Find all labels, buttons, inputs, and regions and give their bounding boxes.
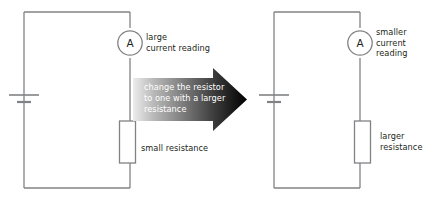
- right-resistor-box: [355, 121, 371, 163]
- transition-arrow-label: change the resistor to one with a larger…: [144, 82, 225, 116]
- left-circuit-group: A: [9, 12, 142, 188]
- right-ammeter-label: smaller current reading: [376, 27, 407, 59]
- right-ammeter-symbol: A: [356, 37, 364, 49]
- left-ammeter-symbol: A: [126, 37, 134, 49]
- left-resistor-label: small resistance: [141, 143, 208, 154]
- right-resistor-label: larger resistance: [380, 131, 423, 152]
- diagram-canvas: A A large current reading small resistan…: [0, 0, 446, 199]
- left-resistor-box: [120, 121, 136, 163]
- left-ammeter-label: large current reading: [146, 32, 210, 53]
- right-circuit-group: A: [259, 12, 372, 188]
